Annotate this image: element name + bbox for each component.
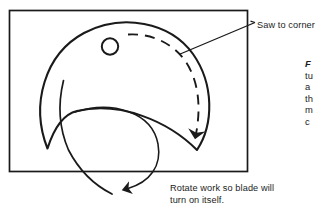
inner-scribe-arc (60, 81, 112, 195)
figure-caption-row-2: tu (305, 70, 328, 82)
callout-saw-to-corner-label: Saw to corner (257, 20, 315, 32)
caption-rotate-line-1: Rotate work so blade will (170, 182, 282, 194)
pilot-hole-icon (102, 38, 118, 54)
figure-caption-row-5: m (305, 104, 328, 116)
figure-caption-row-1: F (305, 58, 328, 70)
caption-rotate-work: Rotate work so blade will turn on itself… (170, 182, 282, 206)
caption-rotate-line-2: turn on itself. (170, 194, 282, 206)
figure-caption-row-3: a (305, 81, 328, 93)
figure-caption-block: F tu a th m c (305, 58, 328, 128)
dashed-cut-path (128, 34, 199, 134)
figure-caption-row-6: c (305, 116, 328, 128)
saw-to-corner-leader-tick (251, 21, 256, 22)
figure-caption-row-4: th (305, 93, 328, 105)
workpiece-outline (40, 22, 209, 150)
figure-root: Saw to corner Rotate work so blade will … (0, 0, 328, 222)
saw-to-corner-leader (179, 23, 255, 55)
